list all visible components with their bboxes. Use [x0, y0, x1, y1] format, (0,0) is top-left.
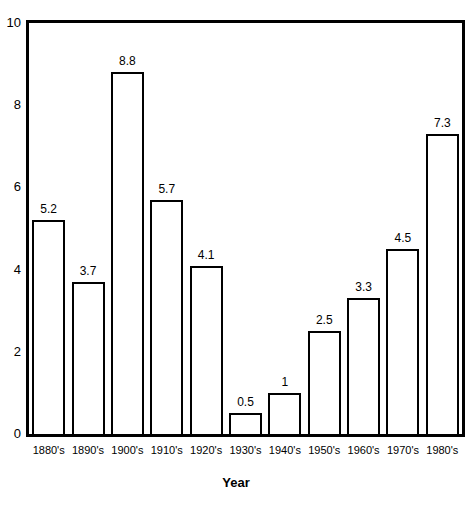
x-axis-title: Year	[0, 475, 472, 490]
x-axis-tick-label: 1880's	[29, 443, 68, 457]
y-axis-tick-label: 4	[0, 263, 21, 276]
x-axis-tick-label: 1980's	[423, 443, 462, 457]
x-axis-tick-label: 1930's	[226, 443, 265, 457]
bar	[72, 282, 105, 434]
x-axis-tick-label: 1920's	[186, 443, 225, 457]
bar-value-label: 3.7	[80, 265, 97, 277]
x-axis: 1880's1890's1900's1910's1920's1930's1940…	[26, 443, 465, 463]
bar-group: 0.5	[229, 23, 262, 434]
bar-group: 1	[268, 23, 301, 434]
y-axis: 0246810	[0, 0, 21, 505]
bar-group: 5.2	[32, 23, 65, 434]
bar-value-label: 1	[282, 376, 289, 388]
bar-group: 4.5	[386, 23, 419, 434]
bar	[426, 134, 459, 434]
bar-group: 7.3	[426, 23, 459, 434]
y-axis-tick-label: 6	[0, 180, 21, 193]
bar-value-label: 4.1	[198, 249, 215, 261]
bar	[268, 393, 301, 434]
bar-group: 4.1	[190, 23, 223, 434]
bar	[150, 200, 183, 434]
bar-value-label: 5.7	[158, 183, 175, 195]
bar-chart: 0246810 5.23.78.85.74.10.512.53.34.57.3 …	[0, 0, 472, 505]
bar-group: 5.7	[150, 23, 183, 434]
bar-group: 8.8	[111, 23, 144, 434]
bar-group: 3.3	[347, 23, 380, 434]
x-axis-tick-label: 1970's	[383, 443, 422, 457]
y-axis-tick-label: 0	[0, 427, 21, 440]
bar-value-label: 5.2	[40, 203, 57, 215]
x-axis-tick-label: 1940's	[265, 443, 304, 457]
bar	[347, 298, 380, 434]
bar	[386, 249, 419, 434]
bar	[190, 266, 223, 435]
y-axis-tick-label: 10	[0, 16, 21, 29]
y-axis-tick-label: 8	[0, 98, 21, 111]
bar-value-label: 0.5	[237, 396, 254, 408]
bars-layer: 5.23.78.85.74.10.512.53.34.57.3	[26, 20, 465, 437]
bar	[308, 331, 341, 434]
bar	[32, 220, 65, 434]
bar-group: 3.7	[72, 23, 105, 434]
bar-value-label: 3.3	[355, 281, 372, 293]
bar-value-label: 8.8	[119, 55, 136, 67]
x-axis-tick-label: 1950's	[305, 443, 344, 457]
x-axis-tick-label: 1960's	[344, 443, 383, 457]
bar	[229, 413, 262, 434]
x-axis-tick-label: 1910's	[147, 443, 186, 457]
bar-group: 2.5	[308, 23, 341, 434]
bar-value-label: 4.5	[395, 232, 412, 244]
y-axis-tick-label: 2	[0, 345, 21, 358]
x-axis-tick-label: 1890's	[68, 443, 107, 457]
bar-value-label: 7.3	[434, 117, 451, 129]
bar-value-label: 2.5	[316, 314, 333, 326]
x-axis-tick-label: 1900's	[108, 443, 147, 457]
bar	[111, 72, 144, 434]
